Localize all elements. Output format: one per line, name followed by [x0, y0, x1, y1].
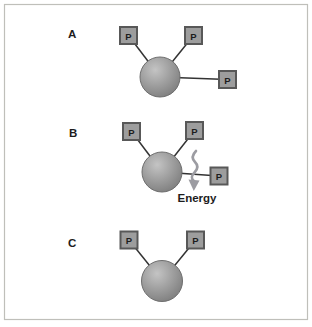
phosphate-letter: P [224, 75, 231, 86]
molecule-sphere [142, 261, 183, 302]
phosphate-letter: P [192, 235, 199, 246]
phosphate-box: P [211, 168, 228, 185]
phosphate-letter: P [216, 171, 223, 182]
phosphate-box: P [120, 27, 137, 44]
diagram-canvas: A P P P B [0, 0, 312, 327]
molecule-sphere [142, 152, 182, 192]
panel-c-label: C [68, 237, 76, 249]
phosphate-box: P [185, 27, 202, 44]
phosphate-letter: P [125, 31, 132, 42]
phosphate-box: P [186, 122, 203, 139]
panel-a-label: A [68, 28, 76, 40]
phosphate-letter: P [191, 126, 198, 137]
energy-label: Energy [178, 192, 218, 204]
phosphate-letter: P [126, 235, 133, 246]
molecule-sphere [140, 57, 180, 97]
phosphate-letter: P [128, 127, 135, 138]
phosphate-box: P [121, 232, 138, 249]
phosphate-letter: P [190, 31, 197, 42]
phosphate-box: P [123, 123, 140, 140]
panel-b-label: B [69, 127, 77, 139]
molecule-phosphate-diagram: A P P P B [0, 0, 312, 327]
phosphate-box: P [219, 71, 236, 88]
phosphate-box: P [187, 232, 204, 249]
